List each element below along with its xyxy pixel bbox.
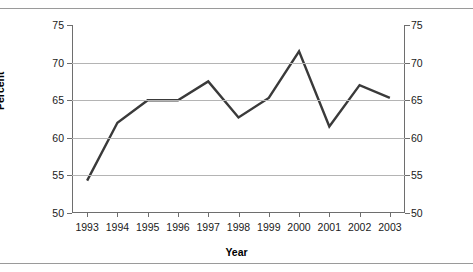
y-tick-label-left-70: 70 [24,58,64,69]
y-tick-r-50 [405,213,410,214]
top-divider-rule [0,8,473,9]
y-tick-label-right-55: 55 [411,170,451,181]
x-axis-title: Year [0,246,473,258]
x-tick-2003 [390,213,391,217]
y-tick-l-65 [67,100,72,101]
y-tick-l-70 [67,63,72,64]
y-tick-label-left-55: 55 [24,170,64,181]
x-tick-1998 [239,213,240,217]
bottom-divider-rule [0,263,473,264]
chart-figure: Percent Year 505055556060656570707575199… [0,0,473,272]
y-tick-r-65 [405,100,410,101]
plot-area [72,25,405,213]
y-tick-label-left-50: 50 [24,208,64,219]
y-tick-label-right-70: 70 [411,58,451,69]
y-tick-r-70 [405,63,410,64]
gridline-60 [72,138,405,139]
y-tick-r-55 [405,175,410,176]
x-tick-2002 [360,213,361,217]
y-tick-l-50 [67,213,72,214]
series-line-percent [72,25,405,213]
x-tick-label-2003: 2003 [370,222,410,233]
x-tick-2001 [329,213,330,217]
x-tick-1999 [269,213,270,217]
y-tick-label-right-50: 50 [411,208,451,219]
y-tick-l-75 [67,25,72,26]
gridline-55 [72,175,405,176]
y-tick-label-left-75: 75 [24,20,64,31]
x-tick-1993 [87,213,88,217]
x-tick-1996 [178,213,179,217]
y-tick-l-60 [67,138,72,139]
y-tick-r-75 [405,25,410,26]
y-tick-label-left-60: 60 [24,133,64,144]
gridline-65 [72,100,405,101]
x-tick-1994 [117,213,118,217]
y-tick-l-55 [67,175,72,176]
x-tick-2000 [299,213,300,217]
x-tick-1995 [148,213,149,217]
x-tick-1997 [208,213,209,217]
gridline-70 [72,63,405,64]
y-tick-label-right-75: 75 [411,20,451,31]
y-tick-label-right-65: 65 [411,95,451,106]
y-tick-r-60 [405,138,410,139]
y-axis-title: Percent [0,71,6,110]
y-tick-label-left-65: 65 [24,95,64,106]
y-tick-label-right-60: 60 [411,133,451,144]
